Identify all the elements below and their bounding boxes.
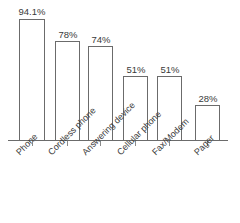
x-axis-category-label: Phone	[14, 132, 39, 157]
bar-chart: 94.1% 78% 74% 51% 51% 28% Phone Cordless…	[0, 0, 240, 223]
bar-value-label: 74%	[85, 34, 117, 45]
bar-value-label: 94.1%	[12, 6, 52, 17]
bar-value-label: 51%	[154, 64, 186, 75]
bar-value-label: 51%	[120, 64, 152, 75]
bar-value-label: 78%	[52, 29, 84, 40]
plot-area: 94.1% 78% 74% 51% 51% 28% Phone Cordless…	[0, 0, 240, 223]
x-axis-line	[8, 140, 228, 141]
bar-phone	[19, 19, 45, 141]
bar-value-label: 28%	[192, 93, 224, 104]
